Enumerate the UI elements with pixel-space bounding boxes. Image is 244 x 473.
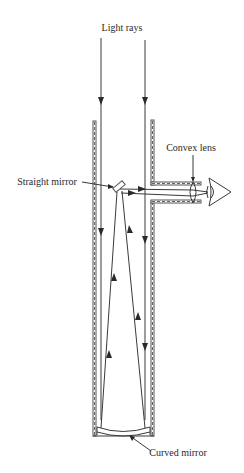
arrow-down-icon xyxy=(98,228,104,236)
arrow-down-icon xyxy=(142,236,148,244)
eyepiece-tube xyxy=(151,182,201,203)
eye-icon xyxy=(207,178,232,206)
straight-mirror-label: Straight mirror xyxy=(17,176,77,187)
arrow-down-icon xyxy=(142,343,148,351)
curved-mirror-label: Curved mirror xyxy=(149,447,207,458)
reflecting-telescope-diagram: Light rays Con xyxy=(0,0,244,473)
convex-lens-label: Convex lens xyxy=(166,142,216,153)
arrow-down-icon xyxy=(98,97,104,105)
straight-mirror xyxy=(113,181,125,193)
curved-mirror xyxy=(97,427,150,436)
arrow-down-icon xyxy=(142,97,148,105)
reflected-rays xyxy=(101,191,145,428)
rays-to-eyepiece xyxy=(120,186,208,196)
light-rays-label: Light rays xyxy=(102,22,143,33)
